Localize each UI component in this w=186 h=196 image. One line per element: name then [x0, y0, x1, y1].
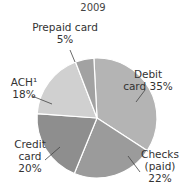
leader-line [70, 50, 75, 62]
slice-label: ACH¹18% [11, 76, 37, 100]
pie-chart: Debitcard 35%Checks(paid)22%Creditcard20… [0, 0, 186, 196]
slice-label: Creditcard20% [14, 138, 46, 174]
slice-label: Checks(paid)22% [141, 148, 179, 184]
slice-label: Prepaid card5% [32, 21, 98, 45]
